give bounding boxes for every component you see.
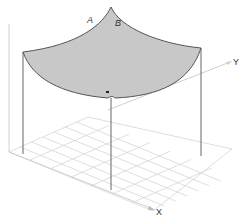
y-axis-arrow-icon [226, 61, 232, 65]
x-axis-line [9, 152, 153, 209]
label-axis-x: X [156, 208, 162, 217]
label-point-a: A [87, 16, 93, 25]
dip-marker [106, 91, 109, 93]
label-point-b: B [115, 19, 121, 28]
label-axis-y: Y [233, 58, 239, 67]
x-axis-arrow-icon [148, 206, 155, 210]
floor-grid [9, 117, 232, 211]
diagram-canvas [0, 0, 241, 224]
